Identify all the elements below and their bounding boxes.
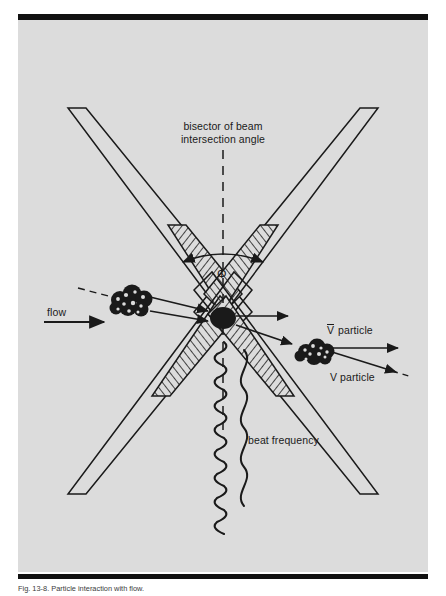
figure-caption: Fig. 13-8. Particle interaction with flo… — [18, 584, 428, 593]
incoming-arrow-upper — [150, 297, 208, 311]
v-velocity-tail — [392, 371, 412, 377]
v-bar-particle-word: particle — [338, 324, 373, 336]
figure-page: bisector of beam intersection angle Φ fl… — [0, 0, 446, 596]
incoming-arrow-lower — [150, 311, 208, 321]
beat-carrier-wave — [215, 342, 227, 534]
particle-incoming-trajectory — [78, 288, 112, 297]
v-particle-label: V particle — [330, 371, 375, 384]
beat-frequency-label: beat frequency — [248, 434, 319, 447]
bisector-label: bisector of beam intersection angle — [157, 120, 289, 145]
particle-outgoing — [295, 339, 335, 366]
v-velocity-arrow — [332, 352, 396, 372]
particle-incoming — [110, 285, 153, 317]
caption-rule — [18, 574, 428, 579]
v-bar-particle-label: Vparticle — [327, 324, 373, 337]
beat-envelope-wave — [241, 350, 247, 506]
angle-phi-label: Φ — [217, 268, 227, 281]
bisector-label-line2: intersection angle — [181, 133, 265, 145]
bisector-label-line1: bisector of beam — [183, 120, 262, 132]
flow-label: flow — [47, 306, 66, 319]
measuring-volume — [210, 307, 236, 329]
diagram-canvas — [0, 0, 446, 596]
v-bar-symbol: V — [327, 324, 334, 336]
